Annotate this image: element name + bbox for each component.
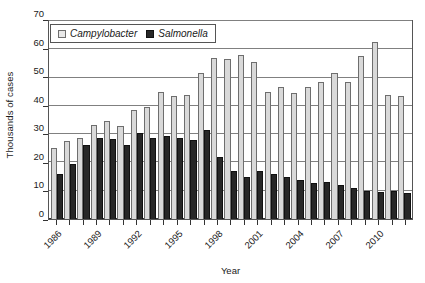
- x-tick-mark-1999: [230, 220, 231, 225]
- x-tick-mark-2002: [271, 220, 272, 225]
- x-tick-mark-1993: [150, 220, 151, 225]
- x-label-slot-1989: 1989: [89, 226, 102, 266]
- x-tick-mark-1994: [163, 220, 164, 225]
- bars-layer: [49, 21, 412, 219]
- x-label-slot-1995: 1995: [170, 226, 183, 266]
- bar-group-2008: [344, 21, 357, 219]
- x-tick-mark-2005: [311, 220, 312, 225]
- x-tick-mark-1992: [136, 220, 137, 225]
- x-tick-mark-1998: [217, 220, 218, 225]
- x-tick-mark-1995: [177, 220, 178, 225]
- bar-salmonella-1994: [164, 136, 170, 219]
- x-tick-mark-1989: [96, 220, 97, 225]
- x-label-slot-2008: [345, 226, 358, 266]
- bar-salmonella-1992: [137, 133, 143, 219]
- bar-group-1993: [144, 21, 157, 219]
- x-label-slot-2007: 2007: [331, 226, 344, 266]
- x-axis-title: Year: [48, 265, 413, 277]
- x-tick-mark-1990: [109, 220, 110, 225]
- bar-salmonella-2011: [391, 191, 397, 219]
- x-label-slot-1999: [224, 226, 237, 266]
- bar-salmonella-2001: [257, 171, 263, 219]
- bar-salmonella-2009: [364, 191, 370, 219]
- bar-group-2002: [264, 21, 277, 219]
- x-tick-mark-2008: [351, 220, 352, 225]
- bar-salmonella-1987: [70, 164, 76, 219]
- bar-salmonella-1995: [177, 138, 183, 219]
- x-tick-mark-2000: [244, 220, 245, 225]
- bar-group-2007: [331, 21, 344, 219]
- bar-salmonella-2000: [244, 177, 250, 219]
- legend-label-campylobacter: Campylobacter: [70, 28, 137, 39]
- x-tick-mark-1991: [123, 220, 124, 225]
- bar-salmonella-1986: [57, 174, 63, 219]
- x-tick-mark-1986: [56, 220, 57, 225]
- x-label-slot-1987: [62, 226, 75, 266]
- legend-swatch-salmonella-icon: [146, 30, 154, 38]
- x-axis-tick-labels: 198619891992199519982001200420072010: [48, 226, 413, 266]
- x-label-slot-2002: [264, 226, 277, 266]
- bar-group-2000: [237, 21, 250, 219]
- bar-salmonella-2004: [297, 180, 303, 219]
- bar-salmonella-1993: [150, 138, 156, 219]
- bar-group-1989: [90, 21, 103, 219]
- bar-group-1991: [117, 21, 130, 219]
- legend-swatch-campylobacter-icon: [58, 30, 66, 38]
- x-label-slot-1986: 1986: [49, 226, 62, 266]
- bar-group-2011: [384, 21, 397, 219]
- x-tick-mark-2011: [392, 220, 393, 225]
- legend-label-salmonella: Salmonella: [158, 28, 207, 39]
- bar-group-2004: [291, 21, 304, 219]
- bar-group-2003: [277, 21, 290, 219]
- bar-group-1988: [77, 21, 90, 219]
- x-tick-mark-1988: [83, 220, 84, 225]
- x-tick-mark-2006: [324, 220, 325, 225]
- bar-group-1997: [197, 21, 210, 219]
- x-tick-mark-1987: [69, 220, 70, 225]
- bar-group-1999: [224, 21, 237, 219]
- bar-salmonella-1998: [217, 157, 223, 219]
- x-tick-mark-2010: [378, 220, 379, 225]
- x-tick-mark-2007: [338, 220, 339, 225]
- bar-salmonella-2002: [271, 174, 277, 219]
- x-label-slot-1996: [183, 226, 196, 266]
- bar-group-1986: [50, 21, 63, 219]
- x-label-slot-1990: [103, 226, 116, 266]
- x-label-slot-1998: 1998: [210, 226, 223, 266]
- bar-group-1994: [157, 21, 170, 219]
- x-label-slot-2011: [385, 226, 398, 266]
- legend-entry-salmonella: Salmonella: [146, 28, 207, 39]
- bar-group-2001: [251, 21, 264, 219]
- plot-area: [48, 20, 413, 220]
- bar-group-2006: [318, 21, 331, 219]
- x-tick-mark-1997: [204, 220, 205, 225]
- bar-salmonella-2006: [324, 182, 330, 219]
- x-tick-mark-2004: [298, 220, 299, 225]
- bar-salmonella-2007: [338, 185, 344, 220]
- x-tick-mark-2009: [365, 220, 366, 225]
- bar-group-1990: [104, 21, 117, 219]
- bar-group-2010: [371, 21, 384, 219]
- x-label-slot-1992: 1992: [130, 226, 143, 266]
- x-tick-mark-1996: [190, 220, 191, 225]
- bar-group-1987: [63, 21, 76, 219]
- legend-entry-campylobacter: Campylobacter: [58, 28, 137, 39]
- x-label-slot-2010: 2010: [372, 226, 385, 266]
- bar-group-2012: [398, 21, 411, 219]
- bar-group-2009: [358, 21, 371, 219]
- bar-salmonella-1999: [231, 171, 237, 219]
- y-tick-label-70: 70: [18, 9, 44, 19]
- y-axis-title: Thousands of cases: [2, 5, 18, 225]
- y-axis-tick-marks: [41, 20, 48, 220]
- bar-salmonella-1989: [97, 138, 103, 219]
- x-tick-label-1986: 1986: [41, 228, 64, 251]
- bar-salmonella-2008: [351, 188, 357, 219]
- bar-salmonella-2010: [378, 192, 384, 219]
- bar-salmonella-1990: [110, 139, 116, 219]
- x-tick-mark-2012: [405, 220, 406, 225]
- bar-salmonella-2005: [311, 183, 317, 219]
- bar-salmonella-1996: [190, 140, 196, 219]
- bar-salmonella-2012: [404, 193, 410, 219]
- x-label-slot-1993: [143, 226, 156, 266]
- bar-salmonella-1991: [124, 145, 130, 219]
